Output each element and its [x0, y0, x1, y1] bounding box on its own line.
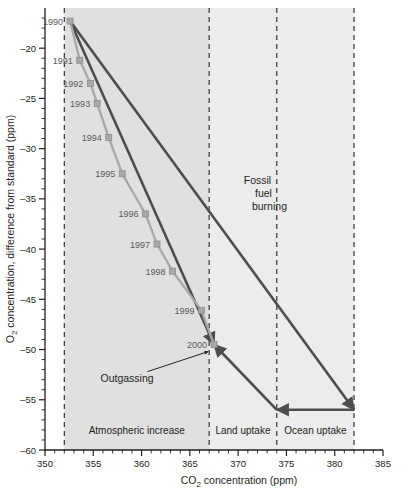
data-point-1996	[142, 211, 148, 217]
data-point-1990	[67, 18, 73, 24]
data-point-1999	[198, 307, 204, 313]
year-label-1991: 1991	[53, 56, 73, 66]
y-tick-label--25: –25	[20, 93, 36, 104]
year-label-1999: 1999	[174, 306, 194, 316]
y-tick-label--35: –35	[20, 193, 36, 204]
data-point-1992	[87, 80, 93, 86]
land-uptake-label: Land uptake	[215, 425, 270, 436]
data-point-1995	[119, 171, 125, 177]
chart-canvas: 350355360365370375380385–20–25–30–35–40–…	[0, 0, 412, 501]
x-tick-label-365: 365	[182, 458, 198, 469]
x-tick-label-360: 360	[134, 458, 150, 469]
x-tick-label-380: 380	[327, 458, 343, 469]
data-point-1998	[169, 268, 175, 274]
x-tick-label-375: 375	[278, 458, 294, 469]
fossil-fuel-burning-label-line-1: fuel	[255, 187, 272, 199]
year-label-1994: 1994	[82, 133, 102, 143]
y-tick-label--20: –20	[20, 43, 36, 54]
year-label-1992: 1992	[63, 79, 83, 89]
year-label-1993: 1993	[70, 99, 90, 109]
data-point-1997	[154, 241, 160, 247]
shaded-zone-land-uptake	[209, 8, 277, 450]
y-tick-label--60: –60	[20, 445, 36, 456]
x-axis-title-pre: CO	[181, 474, 197, 486]
year-label-1996: 1996	[118, 209, 138, 219]
y-axis-title-pre: O	[4, 335, 16, 343]
fossil-fuel-burning-label-line-2: burning	[252, 200, 287, 212]
x-tick-label-370: 370	[230, 458, 246, 469]
fossil-fuel-burning-label-line-0: Fossil	[244, 174, 271, 186]
year-label-2000: 2000	[187, 340, 207, 350]
y-tick-label--55: –55	[20, 394, 36, 405]
x-tick-label-385: 385	[375, 458, 391, 469]
outgassing-label: Outgassing	[101, 372, 154, 384]
y-tick-label--40: –40	[20, 244, 36, 255]
y-axis-title: O2 concentration, difference from standa…	[4, 115, 19, 343]
x-axis-title: CO2 concentration (ppm)	[181, 474, 298, 489]
co2-o2-chart-figure: 350355360365370375380385–20–25–30–35–40–…	[0, 0, 412, 501]
year-label-1997: 1997	[130, 240, 150, 250]
atmospheric-increase-label: Atmospheric increase	[89, 425, 186, 436]
y-axis-title-post: concentration, difference from standard …	[4, 115, 16, 331]
data-point-1991	[77, 57, 83, 63]
y-tick-label--30: –30	[20, 143, 36, 154]
data-point-1993	[94, 100, 100, 106]
x-tick-label-350: 350	[37, 458, 53, 469]
year-label-1995: 1995	[95, 169, 115, 179]
y-tick-label--50: –50	[20, 344, 36, 355]
data-point-1994	[106, 135, 112, 141]
x-axis-title-post: concentration (ppm)	[201, 474, 297, 486]
y-tick-label--45: –45	[20, 294, 36, 305]
shaded-zone-ocean-uptake	[277, 8, 354, 450]
ocean-uptake-label: Ocean uptake	[284, 425, 347, 436]
year-label-1990: 1990	[43, 17, 63, 27]
x-tick-label-355: 355	[85, 458, 101, 469]
year-label-1998: 1998	[145, 267, 165, 277]
data-point-2000	[211, 342, 217, 348]
